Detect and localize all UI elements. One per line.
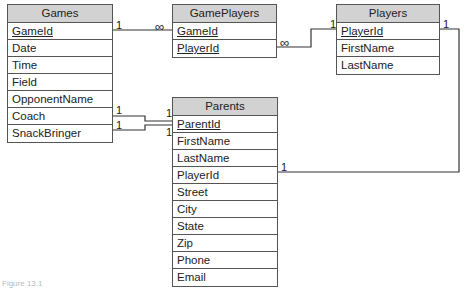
parents-field-phone: Phone <box>173 252 277 269</box>
parents-field-state: State <box>173 218 277 235</box>
gameplayers-field-playerid: PlayerId <box>173 40 276 57</box>
cardinality-players-one: 1 <box>330 19 336 30</box>
parents-field-city: City <box>173 201 277 218</box>
parents-field-firstname: FirstName <box>173 133 277 150</box>
cardinality-snack-one: 1 <box>116 120 122 131</box>
parents-field-playerid: PlayerId <box>173 167 277 184</box>
games-field-gameid: GameId <box>8 23 112 40</box>
parents-field-street: Street <box>173 184 277 201</box>
players-field-lastname: LastName <box>337 57 439 74</box>
players-field-firstname: FirstName <box>337 40 439 57</box>
cardinality-games-one: 1 <box>116 20 122 31</box>
parents-field-parentid: ParentId <box>173 116 277 133</box>
parents-table-title: Parents <box>173 98 277 116</box>
cardinality-parents-playerid-one: 1 <box>281 162 287 173</box>
games-field-coach: Coach <box>8 108 112 125</box>
parents-field-zip: Zip <box>173 235 277 252</box>
cardinality-gameplayers-many: ∞ <box>155 21 164 32</box>
games-table-title: Games <box>8 5 112 23</box>
cardinality-parents-snack-one: 1 <box>166 127 172 138</box>
gameplayers-table: GamePlayers GameId PlayerId <box>172 4 277 58</box>
cardinality-parents-coach-one: 1 <box>166 108 172 119</box>
parents-field-email: Email <box>173 269 277 286</box>
figure-caption: Figure 13.1 <box>2 279 42 288</box>
games-field-field: Field <box>8 74 112 91</box>
games-field-opponentname: OpponentName <box>8 91 112 108</box>
players-table: Players PlayerId FirstName LastName <box>336 4 440 75</box>
cardinality-gameplayers-playerid-many: ∞ <box>280 37 289 48</box>
players-field-playerid: PlayerId <box>337 23 439 40</box>
games-field-date: Date <box>8 40 112 57</box>
games-field-time: Time <box>8 57 112 74</box>
cardinality-coach-one: 1 <box>116 105 122 116</box>
gameplayers-field-gameid: GameId <box>173 23 276 40</box>
cardinality-players-right-one: 1 <box>443 19 449 30</box>
games-field-snackbringer: SnackBringer <box>8 125 112 142</box>
games-table: Games GameId Date Time Field OpponentNam… <box>7 4 113 143</box>
parents-table: Parents ParentId FirstName LastName Play… <box>172 97 278 287</box>
players-table-title: Players <box>337 5 439 23</box>
gameplayers-table-title: GamePlayers <box>173 5 276 23</box>
parents-field-lastname: LastName <box>173 150 277 167</box>
